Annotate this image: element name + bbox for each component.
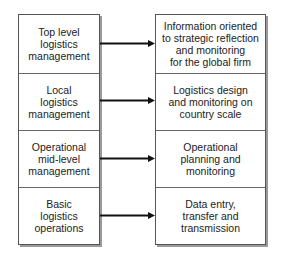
level-local-logistics-management: Local logistics management	[19, 73, 99, 130]
arrow-icon	[100, 40, 155, 47]
level-basic-logistics-operations: Basic logistics operations	[19, 187, 99, 244]
info-operational-planning: Operational planning and monitoring	[156, 130, 265, 187]
information-needs-column: Information oriented to strategic reflec…	[155, 14, 266, 245]
level-operational-mid-level-management: Operational mid-level management	[19, 130, 99, 187]
info-logistics-design-country: Logistics design and monitoring on count…	[156, 73, 265, 130]
info-data-entry-transfer: Data entry, transfer and transmission	[156, 187, 265, 244]
management-levels-column: Top level logistics management Local log…	[18, 14, 100, 245]
arrow-icon	[100, 155, 155, 162]
arrow-icon	[100, 97, 155, 104]
level-top-logistics-management: Top level logistics management	[19, 15, 99, 73]
arrow-icon	[100, 212, 155, 219]
info-strategic-global: Information oriented to strategic reflec…	[156, 15, 265, 73]
